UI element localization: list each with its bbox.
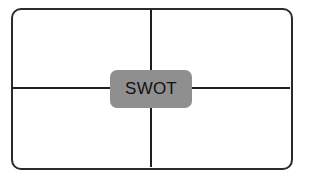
center-label: SWOT — [125, 79, 177, 99]
center-label-box: SWOT — [110, 70, 192, 108]
